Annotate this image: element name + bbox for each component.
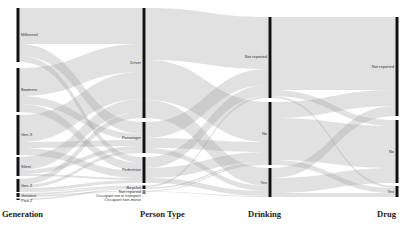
node-label-generation-gen-x: Gen X — [21, 132, 33, 137]
node-bar-drug-no — [396, 120, 399, 183]
node-bar-drinking-not-reported — [269, 17, 272, 98]
node-bar-drinking-no — [269, 102, 272, 165]
node-label-person-type-passenger: Passenger — [122, 135, 142, 140]
node-bar-person-type-occupant-non-motor — [143, 193, 146, 194]
node-label-drinking-no: No — [262, 131, 268, 136]
node-bar-generation-greatest — [17, 193, 20, 197]
node-bar-person-type-not-reported — [143, 191, 146, 192]
node-bar-generation-boomers — [17, 68, 20, 112]
node-label-drug-not-reported: Not reported — [372, 64, 394, 69]
axis-label-generation: Generation — [2, 209, 43, 219]
node-label-generation-silent: Silent — [21, 164, 32, 169]
node-label-generation-boomers: Boomers — [21, 87, 37, 92]
node-label-person-type-driver: Driver — [130, 60, 141, 65]
node-label-drug-no: No — [389, 149, 395, 154]
axis-label-drug: Drug — [377, 209, 397, 219]
node-bar-generation-gen-x — [17, 115, 20, 155]
node-bar-drug-yes — [396, 186, 399, 197]
node-bar-person-type-bicyclist — [143, 186, 146, 190]
flow-band — [272, 193, 396, 197]
node-bar-generation-silent — [17, 157, 20, 176]
node-bar-person-type-occupant-not-in-transport — [143, 192, 146, 193]
node-label-person-type-pedestrian: Pedestrian — [122, 167, 141, 172]
node-bar-drug-not-reported — [396, 17, 399, 116]
flows — [20, 8, 396, 200]
node-bar-generation-millennial — [17, 8, 20, 62]
flow-band — [146, 8, 269, 69]
axis-label-person-type: Person Type — [140, 209, 185, 219]
flow-band — [20, 8, 143, 44]
node-label-drinking-yes: Yes — [260, 180, 267, 185]
axis-label-drinking: Drinking — [248, 209, 282, 219]
node-bar-person-type-driver — [143, 8, 146, 118]
node-label-drug-yes: Yes — [387, 189, 394, 194]
node-label-generation-gen-z: Gen Z — [21, 183, 33, 188]
node-label-person-type-occupant-non-motor: Occupant non-motor — [105, 197, 142, 202]
node-bar-generation-post-z — [17, 199, 20, 201]
alluvial-diagram: MillennialBoomersGen XSilentGen ZGreates… — [0, 0, 409, 228]
node-label-generation-post-z: Post Z — [21, 198, 33, 203]
node-bar-generation-gen-z — [17, 179, 20, 192]
node-bar-person-type-pedestrian — [143, 157, 146, 183]
node-bar-drinking-yes — [269, 168, 272, 197]
flow-band — [272, 17, 396, 90]
node-bar-person-type-passenger — [143, 122, 146, 153]
node-label-drinking-not-reported: Not reported — [245, 54, 267, 59]
node-label-generation-millennial: Millennial — [21, 32, 38, 37]
axis-labels: GenerationPerson TypeDrinkingDrug — [2, 209, 397, 219]
